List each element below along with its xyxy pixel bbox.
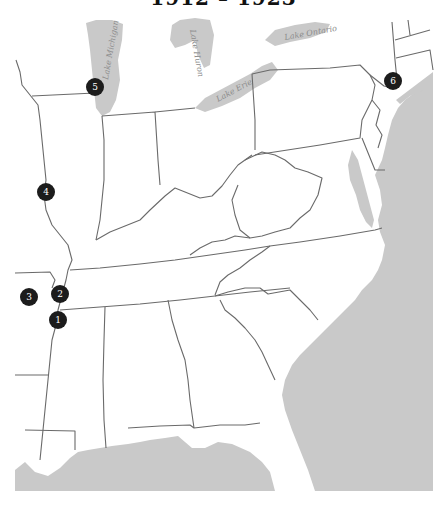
chesapeake-bay [348, 150, 374, 228]
marker-2[interactable]: 2 [51, 285, 69, 303]
marker-3[interactable]: 3 [20, 288, 38, 306]
map-canvas: Lake Michigan Lake Huron Lake Erie Lake … [0, 0, 447, 511]
marker-5-label: 5 [92, 82, 98, 92]
marker-4[interactable]: 4 [37, 183, 55, 201]
marker-1-label: 1 [55, 315, 61, 325]
marker-2-label: 2 [57, 289, 63, 299]
marker-6[interactable]: 6 [384, 72, 402, 90]
gulf-of-mexico [15, 436, 275, 491]
marker-4-label: 4 [43, 187, 49, 197]
marker-3-label: 3 [26, 292, 32, 302]
atlantic-ocean [282, 70, 433, 491]
marker-6-label: 6 [390, 76, 396, 86]
marker-1[interactable]: 1 [49, 311, 67, 329]
marker-5[interactable]: 5 [86, 78, 104, 96]
